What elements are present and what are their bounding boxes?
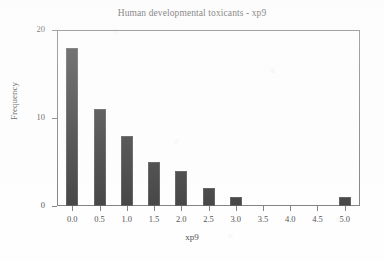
histogram-figure: Human developmental toxicants - xp9 Freq… <box>0 0 384 262</box>
x-tick-mark <box>317 206 318 211</box>
x-tick-label: 0.5 <box>85 214 115 224</box>
x-tick-mark <box>181 206 182 211</box>
x-tick-label: 4.5 <box>302 214 332 224</box>
x-tick-mark <box>154 206 155 211</box>
x-tick-label: 4.0 <box>275 214 305 224</box>
x-tick-label: 5.0 <box>330 214 360 224</box>
x-tick-label: 3.0 <box>221 214 251 224</box>
x-tick-label: 2.0 <box>166 214 196 224</box>
x-tick-label: 0.0 <box>57 214 87 224</box>
x-axis-title: xp9 <box>0 232 384 242</box>
x-tick-mark <box>127 206 128 211</box>
x-tick-label: 1.0 <box>112 214 142 224</box>
x-axis: xp9 0.00.51.01.52.02.53.03.54.04.55.0 <box>0 0 384 262</box>
x-tick-mark <box>236 206 237 211</box>
x-tick-mark <box>345 206 346 211</box>
x-tick-mark <box>100 206 101 211</box>
x-tick-mark <box>209 206 210 211</box>
x-tick-label: 3.5 <box>248 214 278 224</box>
x-tick-mark <box>263 206 264 211</box>
x-tick-label: 1.5 <box>139 214 169 224</box>
x-tick-mark <box>290 206 291 211</box>
x-tick-mark <box>72 206 73 211</box>
x-tick-label: 2.5 <box>194 214 224 224</box>
